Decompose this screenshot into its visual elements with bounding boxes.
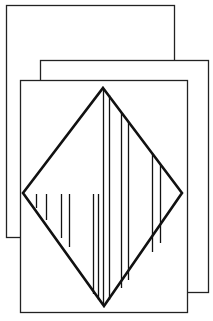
stacked-cards-diagram — [0, 0, 213, 321]
